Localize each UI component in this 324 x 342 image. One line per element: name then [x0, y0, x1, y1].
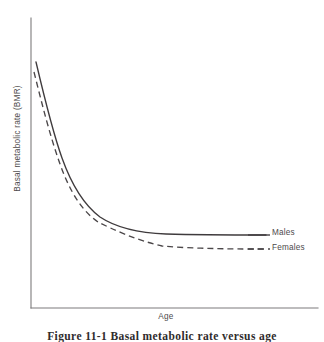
figure-caption: Figure 11-1 Basal metabolic rate versus … — [0, 330, 324, 342]
y-axis-label: Basal metabolic rate (BMR) — [13, 54, 22, 224]
x-axis-label: Age — [110, 312, 222, 321]
legend-label-females: Females — [272, 243, 305, 252]
series-line-females — [34, 72, 266, 249]
series-line-males — [36, 62, 266, 235]
legend-label-males: Males — [272, 228, 295, 237]
